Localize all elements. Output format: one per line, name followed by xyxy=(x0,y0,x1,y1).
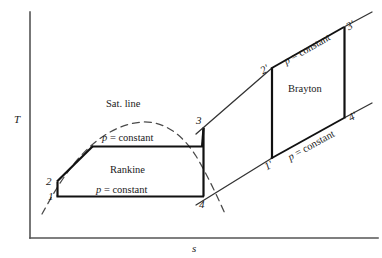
rankine-lower-isobar-text: = constant xyxy=(101,184,147,195)
figure-root: T s Sat. line Rankine Brayton p = consta… xyxy=(0,0,382,258)
rankine-upper-isobar-text: = constant xyxy=(107,132,153,143)
brayton-region-label: Brayton xyxy=(288,84,322,95)
state-point-1-label: 1 xyxy=(48,191,54,202)
state-point-4-label: 4 xyxy=(199,199,205,210)
rankine-process-2-to-sat xyxy=(57,146,93,182)
sat-line-label: Sat. line xyxy=(106,99,140,110)
state-point-2-label: 2 xyxy=(46,176,52,187)
temperature-axis-label: T xyxy=(14,114,20,125)
brayton-lower-isobar-left-tail xyxy=(196,158,272,205)
rankine-upper-isobar-label: p = constant xyxy=(102,133,153,144)
brayton-upper-isobar-left-tail xyxy=(196,68,272,134)
rankine-lower-isobar-label: p = constant xyxy=(96,185,147,196)
entropy-axis-label: s xyxy=(192,243,196,254)
state-point-3-label: 3 xyxy=(196,115,202,126)
rankine-region-label: Rankine xyxy=(110,165,145,176)
